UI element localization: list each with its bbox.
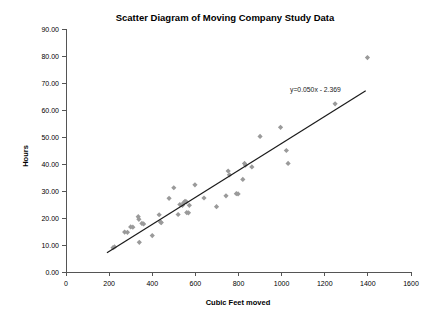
chart-background: [0, 0, 444, 318]
x-tick-label: 1400: [360, 280, 376, 287]
x-tick-label: 400: [146, 280, 158, 287]
chart-canvas: Scatter Diagram of Moving Company Study …: [0, 0, 444, 318]
x-tick-label: 0: [64, 280, 68, 287]
y-tick-label: 80.00: [41, 53, 59, 60]
x-tick-label: 1200: [317, 280, 333, 287]
x-tick-label: 1000: [274, 280, 290, 287]
y-tick-label: 70.00: [41, 80, 59, 87]
y-tick-label: 60.00: [41, 107, 59, 114]
x-tick-label: 200: [103, 280, 115, 287]
x-tick-label: 1600: [403, 280, 419, 287]
y-tick-label: 0.00: [45, 269, 59, 276]
y-tick-label: 50.00: [41, 134, 59, 141]
scatter-chart: Scatter Diagram of Moving Company Study …: [0, 0, 444, 318]
x-tick-label: 600: [190, 280, 202, 287]
y-axis-title: Hours: [21, 145, 30, 167]
x-axis-title: Cubic Feet moved: [206, 298, 271, 307]
y-tick-label: 30.00: [41, 188, 59, 195]
x-tick-label: 800: [233, 280, 245, 287]
y-tick-label: 90.00: [41, 26, 59, 33]
page-title: Scatter Diagram of Moving Company Study …: [116, 12, 335, 23]
y-tick-label: 20.00: [41, 215, 59, 222]
y-tick-label: 40.00: [41, 161, 59, 168]
trend-equation-label: y=0.050x - 2.369: [290, 86, 341, 94]
y-tick-label: 10.00: [41, 242, 59, 249]
